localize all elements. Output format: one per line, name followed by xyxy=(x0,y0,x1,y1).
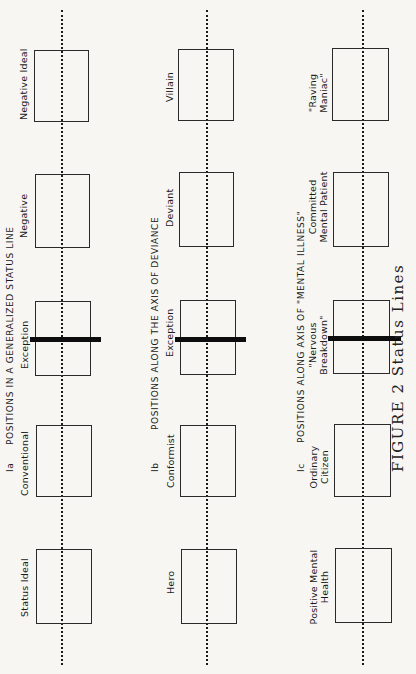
position-box-ordinary-citizen xyxy=(334,424,391,497)
label-ordinary-citizen: Ordinary Citizen xyxy=(308,436,330,498)
position-box-committed-mental-patient xyxy=(333,172,389,247)
current-position-marker xyxy=(175,337,246,342)
position-box-conventional xyxy=(36,425,92,497)
label-line-1: Committed xyxy=(307,166,318,248)
position-box-negative xyxy=(35,174,90,248)
position-box-deviant xyxy=(179,172,234,247)
current-position-marker xyxy=(30,337,101,342)
position-box-raving-maniac xyxy=(332,48,389,121)
label-nervous-breakdown: "Nervous Breakdown" xyxy=(307,312,329,378)
position-box-status-ideal xyxy=(36,549,92,624)
label-committed-mental-patient: Committed Mental Patient xyxy=(307,166,329,248)
position-box-positive-mental-health xyxy=(335,548,392,623)
label-line-2: Breakdown" xyxy=(318,312,329,378)
position-box-conformist xyxy=(180,425,236,497)
label-line-2: Mental Patient xyxy=(318,166,329,248)
label-negative: Negative xyxy=(18,194,29,238)
label-conventional: Conventional xyxy=(19,431,30,496)
position-box-villain xyxy=(178,49,234,121)
label-villain: Villain xyxy=(164,72,175,102)
status-lines-figure: Status Ideal Conventional Exception Nega… xyxy=(0,0,416,674)
label-raving-maniac: "Raving Maniac" xyxy=(307,68,329,118)
label-status-ideal: Status Ideal xyxy=(19,558,30,617)
label-conformist: Conformist xyxy=(165,434,176,488)
panel-tag: Ib xyxy=(150,462,161,472)
label-exception: Exception xyxy=(19,320,30,369)
label-line-2: Maniac" xyxy=(318,68,329,118)
figure-caption: FIGURE 2 Status Lines xyxy=(393,264,404,472)
panel-heading: POSITIONS ALONG THE AXIS OF DEVIANCE xyxy=(150,217,161,430)
label-exception: Exception xyxy=(164,308,175,357)
position-box-hero xyxy=(181,549,237,624)
label-line-1: "Nervous xyxy=(307,312,318,378)
label-line-1: "Raving xyxy=(307,68,318,118)
panel-heading: POSITIONS IN A GENERALIZED STATUS LINE xyxy=(5,226,16,445)
panel-heading: POSITIONS ALONG AXIS OF "MENTAL ILLNESS" xyxy=(296,211,307,443)
label-positive-mental-health: Positive Mental Health xyxy=(308,548,330,626)
label-negative-ideal: Negative Ideal xyxy=(18,48,29,120)
panel-tag: Ia xyxy=(5,463,16,472)
label-deviant: Deviant xyxy=(164,189,175,227)
label-line-1: Ordinary xyxy=(308,436,319,498)
position-box-negative-ideal xyxy=(34,50,89,122)
label-line-2: Citizen xyxy=(319,436,330,498)
label-line-2: Health xyxy=(319,548,330,626)
label-line-1: Positive Mental xyxy=(308,548,319,626)
panel-tag: Ic xyxy=(296,463,307,472)
label-hero: Hero xyxy=(165,571,176,594)
